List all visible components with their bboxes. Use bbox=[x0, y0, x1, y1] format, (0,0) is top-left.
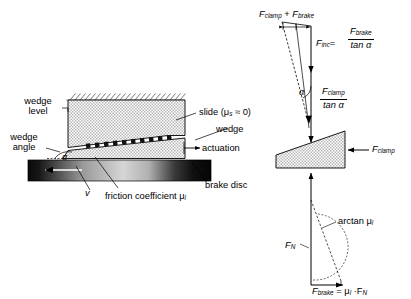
f-clamp-label: Fclamp bbox=[372, 144, 395, 157]
alpha-angle-symbol-right: α bbox=[299, 87, 304, 98]
f-brake-equation-label: Fbrake = μl ·FN bbox=[312, 286, 367, 299]
velocity-label: v bbox=[85, 188, 90, 199]
leader-lines-right bbox=[300, 222, 336, 248]
f-brake-eq-tail-sub: N bbox=[362, 289, 367, 296]
f-brake-eq-tail: ·F bbox=[351, 286, 362, 296]
friction-coefficient-subscript: l bbox=[185, 194, 186, 201]
plus-operator: + bbox=[282, 9, 293, 19]
arctan-text: arctan μ bbox=[338, 216, 372, 226]
wedge-label-right: wedge bbox=[216, 124, 243, 135]
sum-force-label: Fclamp + Fbrake bbox=[259, 9, 314, 22]
f-brake-subscript: brake bbox=[298, 12, 314, 19]
slide-tail: ≈ 0) bbox=[232, 107, 251, 117]
arctan-subscript: l bbox=[372, 219, 373, 226]
f-clamp-fraction: Fclamp tan α bbox=[320, 86, 347, 110]
f-brake-eq-sub: brake bbox=[318, 289, 334, 296]
diagram-canvas: wedge level wedge angle α v friction coe… bbox=[0, 0, 411, 299]
brake-disc-label: brake disc bbox=[205, 180, 247, 191]
f-inc-denominator: tan α bbox=[348, 39, 374, 50]
arctan-label: arctan μl bbox=[338, 216, 373, 229]
f-inc-label: Finc= bbox=[316, 38, 335, 51]
actuation-label: actuation bbox=[202, 143, 240, 154]
slide-label: slide (μs ≈ 0) bbox=[199, 107, 251, 120]
f-normal-label: FN bbox=[285, 240, 295, 253]
wedge-angle-label-line1: wedge bbox=[0, 132, 48, 143]
f-brake-eq-rest: = μ bbox=[334, 286, 350, 296]
wedge-angle-alpha-symbol: α bbox=[62, 152, 67, 163]
ground-hatch-icon bbox=[66, 94, 186, 101]
f-clamp-subscript: clamp bbox=[265, 12, 282, 19]
f-inc-subscript: inc bbox=[322, 41, 330, 48]
wedge-angle-label-line2: angle bbox=[0, 142, 48, 153]
f-clamp-denominator: tan α bbox=[320, 99, 347, 110]
f-clamp-numerator: Fclamp bbox=[320, 86, 347, 99]
f-inc-fraction: Fbrake tan α bbox=[348, 26, 374, 50]
slide-text: slide (μ bbox=[199, 107, 229, 117]
f-inc-equals: = bbox=[330, 38, 335, 48]
wedge-level-label-line2: level bbox=[14, 106, 62, 117]
friction-coefficient-text: friction coefficient μ bbox=[105, 191, 185, 201]
upper-force-triangle bbox=[282, 22, 314, 143]
f-normal-sub: N bbox=[291, 243, 296, 250]
friction-coefficient-label: friction coefficient μl bbox=[105, 191, 186, 204]
f-clamp-sub: clamp bbox=[378, 147, 395, 154]
lower-force-triangle bbox=[311, 200, 348, 288]
wedge-level-label-line1: wedge bbox=[14, 96, 62, 107]
f-inc-numerator: Fbrake bbox=[348, 26, 374, 39]
